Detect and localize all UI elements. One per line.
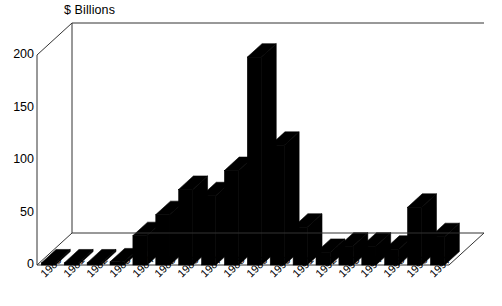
bars-group xyxy=(41,44,459,265)
y-axis-tick-label: 50 xyxy=(0,205,34,219)
y-axis-tick-label: 100 xyxy=(0,152,34,166)
y-axis-tick-label: 200 xyxy=(0,47,34,61)
y-axis-tick-label: 0 xyxy=(0,257,34,271)
y-axis-tick-label: 150 xyxy=(0,100,34,114)
bar-chart: $ Billions 050100150200 1980198119821983… xyxy=(0,0,502,306)
